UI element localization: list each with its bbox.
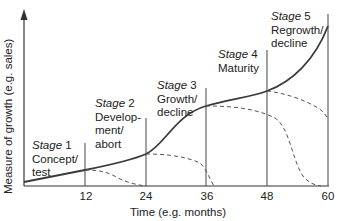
stage-number: 5 — [304, 10, 310, 22]
stage-name-line: decline — [271, 37, 323, 51]
stage-word: Stage — [95, 97, 125, 109]
stage-name-line: test — [32, 166, 78, 180]
stage-number: 1 — [65, 139, 71, 151]
dashed-decline-stage4 — [267, 91, 328, 119]
y-axis-arrow-icon — [21, 9, 28, 20]
stage-2-label: Stage 2 Develop- ment/ abort — [95, 97, 141, 151]
stage-name-line: Regrowth/ — [271, 24, 323, 38]
stage-number: 4 — [251, 48, 257, 60]
stage-name-line: Develop- — [95, 111, 141, 125]
stage-word: Stage — [218, 48, 248, 60]
stage-name-line: decline — [157, 106, 197, 120]
x-tick-48: 48 — [261, 190, 274, 202]
stage-1-label: Stage 1 Concept/ test — [32, 139, 78, 180]
x-tick-36: 36 — [201, 190, 214, 202]
stage-name-line: Growth/ — [157, 93, 197, 107]
stage-3-label: Stage 3 Growth/ decline — [157, 79, 197, 120]
stage-4-label: Stage 4 Maturity — [218, 48, 259, 75]
y-axis-label: Measure of growth (e.g. sales) — [2, 39, 14, 194]
stage-name-line: Maturity — [218, 62, 259, 76]
stage-name-line: abort — [95, 138, 141, 152]
dashed-decline-stage3 — [206, 106, 321, 186]
stage-number: 2 — [128, 97, 134, 109]
stage-word: Stage — [32, 139, 62, 151]
stage-word: Stage — [157, 79, 187, 91]
dashed-decline-stage2 — [146, 154, 214, 186]
x-tick-24: 24 — [140, 190, 153, 202]
x-axis-label: Time (e.g. months) — [130, 206, 226, 218]
stage-number: 3 — [190, 79, 196, 91]
dashed-decline-stage1 — [85, 170, 146, 186]
stage-word: Stage — [271, 10, 301, 22]
x-tick-12: 12 — [80, 190, 93, 202]
stage-5-label: Stage 5 Regrowth/ decline — [271, 10, 323, 51]
stage-name-line: ment/ — [95, 124, 141, 138]
x-tick-60: 60 — [322, 190, 335, 202]
stage-name-line: Concept/ — [32, 153, 78, 167]
